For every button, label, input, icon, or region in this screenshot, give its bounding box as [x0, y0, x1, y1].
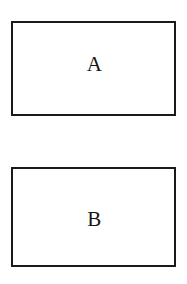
rectangle-b-label: B [87, 209, 102, 230]
diagram-canvas: A B [0, 0, 187, 284]
rectangle-b: B [11, 167, 176, 267]
rectangle-a: A [11, 21, 176, 116]
rectangle-a-label: A [87, 54, 103, 75]
